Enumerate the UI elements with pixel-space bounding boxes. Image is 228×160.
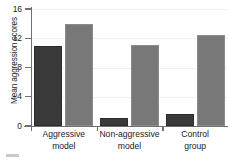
legend-swatch [6,154,19,157]
y-tick-label-12: 12 [0,33,22,43]
x-category-label-control-group: Control group [156,129,228,152]
x-category-line2: group [156,141,228,153]
x-axis-labels: Aggressive model Non-aggressive model Co… [31,129,228,159]
x-category-line1: Control [181,129,209,139]
y-tick-label-8: 8 [0,62,22,72]
bar-non-aggressive-model-dark-series [100,118,128,126]
bar-chart: Mean aggression scores 16 12 8 4 0 Aggre… [0,0,228,160]
y-tick-label-4: 4 [0,91,22,101]
x-category-line1: Non-aggressive [99,129,159,139]
bar-control-group-dark-series [166,114,194,126]
bars-layer [31,9,228,126]
y-tick-label-0: 0 [0,121,22,131]
bar-non-aggressive-model-gray-series [131,45,159,126]
bar-control-group-gray-series [197,35,225,126]
bar-aggressive-model-dark-series [34,46,62,126]
x-category-line1: Aggressive [43,129,86,139]
y-tick-label-16: 16 [0,4,22,14]
x-axis-line [24,126,228,127]
bar-aggressive-model-gray-series [65,24,93,126]
